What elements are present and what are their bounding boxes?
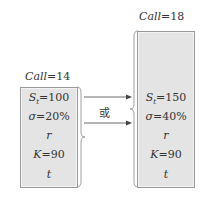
var: r: [46, 129, 51, 142]
left-row-strike: K=90: [21, 148, 77, 161]
val: =20%: [36, 110, 70, 123]
val: =90: [159, 148, 182, 161]
call-label: Call: [139, 10, 161, 23]
right-row-stock-price: St=150: [138, 91, 194, 106]
call-value: =14: [47, 70, 70, 83]
or-label: 或: [99, 104, 110, 120]
call-label: Call: [25, 70, 47, 83]
right-row-rate: r: [138, 129, 194, 142]
right-row-strike: K=90: [138, 148, 194, 161]
val: =150: [156, 91, 186, 104]
left-parameter-box: St=100 σ=20% r K=90 t: [20, 87, 78, 188]
var: K: [33, 148, 41, 161]
var: t: [47, 168, 51, 181]
val: =100: [39, 91, 69, 104]
left-row-rate: r: [21, 129, 77, 142]
val: =90: [42, 148, 65, 161]
var: r: [163, 129, 168, 142]
call-value: =18: [161, 10, 184, 23]
right-row-time: t: [138, 168, 194, 181]
left-row-volatility: σ=20%: [21, 110, 77, 123]
var: t: [164, 168, 168, 181]
val: =40%: [153, 110, 187, 123]
right-call-title: Call=18: [139, 10, 184, 23]
left-row-stock-price: St=100: [21, 91, 77, 106]
left-row-time: t: [21, 168, 77, 181]
right-parameter-box: St=150 σ=40% r K=90 t: [137, 31, 195, 188]
var: K: [150, 148, 158, 161]
left-call-title: Call=14: [25, 70, 70, 83]
var: σ: [145, 110, 153, 123]
right-row-volatility: σ=40%: [138, 110, 194, 123]
var: σ: [28, 110, 36, 123]
